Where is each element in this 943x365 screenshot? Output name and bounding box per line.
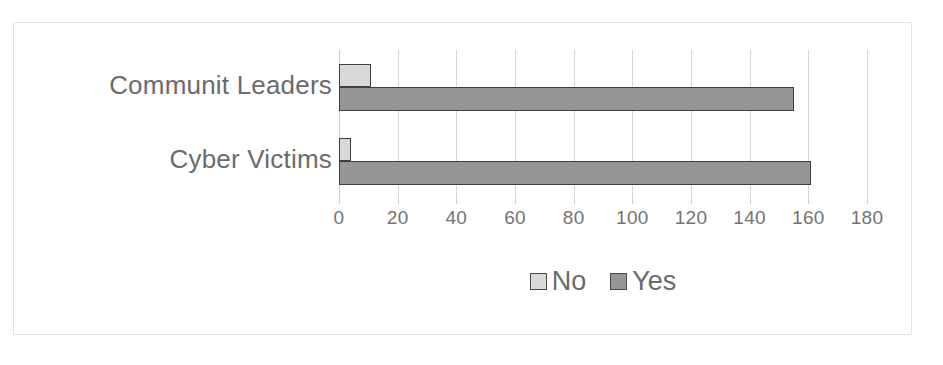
tick-label-0: 0	[334, 207, 345, 229]
legend-swatch-yes-icon	[610, 273, 627, 290]
category-label-communit-leaders: Communit Leaders	[109, 70, 332, 101]
bar-no-cyber-victims	[339, 138, 351, 162]
legend-item-no[interactable]: No	[530, 268, 587, 295]
category-axis-labels: Communit LeadersCyber Victims	[20, 50, 332, 198]
bar-yes-communit-leaders	[339, 87, 794, 111]
tick-mark-180	[867, 198, 868, 204]
tick-label-180: 180	[851, 207, 884, 229]
tick-label-120: 120	[675, 207, 708, 229]
tick-label-80: 80	[563, 207, 585, 229]
tick-mark-160	[808, 198, 809, 204]
gridline-180	[867, 50, 868, 198]
bar-yes-cyber-victims	[339, 161, 811, 185]
tick-label-40: 40	[445, 207, 467, 229]
bar-chart: Communit LeadersCyber Victims 0204060801…	[0, 0, 943, 365]
legend-label-no: No	[552, 268, 587, 295]
category-label-cyber-victims: Cyber Victims	[170, 144, 333, 175]
tick-mark-20	[398, 198, 399, 204]
tick-mark-100	[632, 198, 633, 204]
tick-label-160: 160	[792, 207, 825, 229]
plot-area: 020406080100120140160180	[339, 50, 867, 198]
tick-mark-40	[456, 198, 457, 204]
tick-mark-80	[574, 198, 575, 204]
legend-item-yes[interactable]: Yes	[610, 268, 676, 295]
tick-mark-140	[750, 198, 751, 204]
tick-label-100: 100	[616, 207, 649, 229]
bar-no-communit-leaders	[339, 64, 371, 88]
tick-mark-60	[515, 198, 516, 204]
tick-mark-0	[339, 198, 340, 204]
tick-label-60: 60	[504, 207, 526, 229]
tick-mark-120	[691, 198, 692, 204]
legend-swatch-no-icon	[530, 273, 547, 290]
tick-label-20: 20	[387, 207, 409, 229]
chart-legend: NoYes	[339, 268, 867, 295]
legend-label-yes: Yes	[632, 268, 676, 295]
tick-label-140: 140	[733, 207, 766, 229]
